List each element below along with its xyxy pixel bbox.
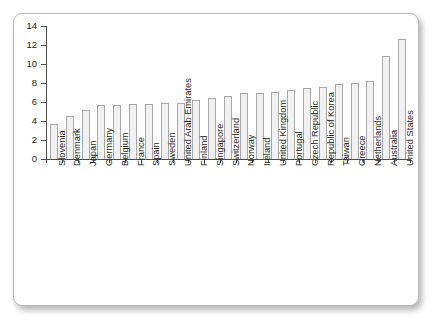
x-tick-label: France: [137, 137, 146, 166]
y-tick-mark: [41, 45, 46, 46]
x-tick-label: Portugal: [295, 131, 304, 166]
x-axis-line: [46, 159, 410, 160]
x-tick-label: Netherlands: [374, 116, 383, 166]
x-tick-label: Denmark: [73, 128, 82, 166]
y-tick-label: 14: [0, 21, 41, 31]
x-tick-label: Germany: [105, 128, 114, 166]
x-tick-label: Japan: [89, 141, 98, 166]
x-tick-label: Spain: [152, 142, 161, 166]
x-tick-label: Switzerland: [232, 118, 241, 166]
x-tick-label: Sweden: [168, 132, 177, 166]
x-tick-label: Taiwan: [342, 137, 351, 166]
x-tick-label: United Kingdom: [279, 100, 288, 166]
x-tick-label: United States: [406, 110, 415, 166]
x-tick-label: Ireland: [263, 138, 272, 166]
x-tick-label: Czech Republic: [311, 101, 320, 166]
y-tick-label: 4: [0, 116, 41, 126]
y-tick-mark: [41, 64, 46, 65]
x-tick-label: Finland: [200, 136, 209, 167]
y-tick-mark: [41, 26, 46, 27]
x-tick-label: Singapore: [216, 124, 225, 166]
x-tick-mark: [46, 159, 47, 163]
y-tick-label: 12: [0, 40, 41, 50]
x-tick-label: Slovenia: [58, 130, 67, 166]
x-tick-label: Republic of Korea: [327, 92, 336, 166]
x-tick-label: Australia: [390, 130, 399, 166]
y-axis-line: [46, 26, 47, 160]
y-tick-label: 10: [0, 59, 41, 69]
y-tick-label: 0: [0, 154, 41, 164]
x-tick-label: Greece: [358, 136, 367, 167]
y-tick-mark: [41, 140, 46, 141]
x-tick-label: United Arab Emirates: [184, 78, 193, 166]
y-tick-mark: [41, 102, 46, 103]
y-tick-mark: [41, 121, 46, 122]
y-tick-label: 2: [0, 135, 41, 145]
y-tick-mark: [41, 83, 46, 84]
y-tick-label: 8: [0, 78, 41, 88]
x-tick-label: Belgium: [121, 132, 130, 166]
y-tick-label: 6: [0, 97, 41, 107]
bar-chart-plot: 02468101214 SloveniaDenmarkJapanGermanyB…: [0, 0, 435, 325]
x-tick-label: Norway: [247, 134, 256, 166]
